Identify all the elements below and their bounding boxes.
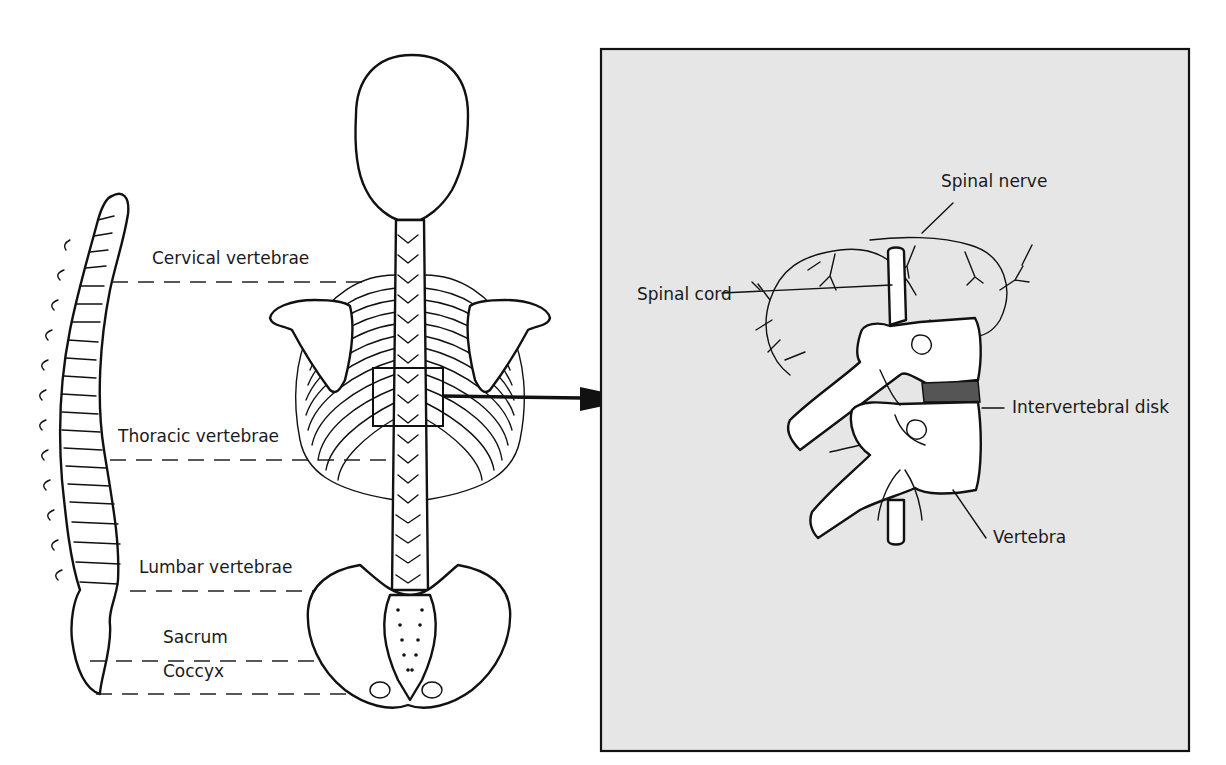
lateral-spine-illustration [40,194,129,694]
label-lumbar: Lumbar vertebrae [139,557,292,577]
intervertebral-disk [922,381,980,402]
vertebral-column [392,220,428,590]
spine-diagram: Cervical vertebrae Thoracic vertebrae Lu… [0,0,1226,765]
label-intervertebral-disk: Intervertebral disk [1012,397,1169,417]
label-cervical: Cervical vertebrae [152,248,309,268]
label-thoracic: Thoracic vertebrae [117,426,279,446]
label-sacrum: Sacrum [163,627,228,647]
label-spinal-nerve: Spinal nerve [941,171,1047,191]
skull [355,55,468,220]
label-coccyx: Coccyx [163,661,224,681]
spinal-cord [888,248,906,326]
label-spinal-cord: Spinal cord [637,284,732,304]
label-vertebra: Vertebra [993,527,1066,547]
spinal-cord-lower [888,500,904,545]
posterior-skeleton-illustration [270,55,550,708]
